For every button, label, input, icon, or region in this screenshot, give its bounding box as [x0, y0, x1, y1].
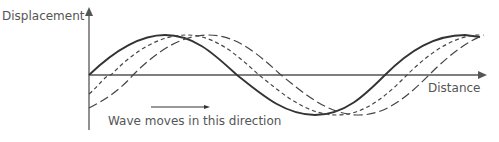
direction-arrow-head-icon — [204, 105, 210, 109]
direction-annotation: Wave moves in this direction — [108, 114, 281, 128]
y-axis-label: Displacement — [2, 9, 85, 23]
x-axis-arrow-icon — [478, 71, 487, 79]
x-axis-label: Distance — [428, 81, 480, 95]
y-axis-arrow-icon — [85, 7, 93, 16]
